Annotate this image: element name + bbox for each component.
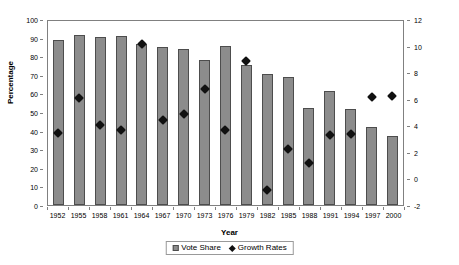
x-axis-tick-label: 1982 [257,207,278,229]
y-axis-left-tick-label: 50 [30,110,38,117]
y-axis-left-tick [40,94,43,95]
bar [283,77,294,205]
bar-slot [152,21,173,205]
y-axis-right-tick-label: 0 [414,176,418,183]
y-axis-left-tick-label: 20 [30,165,38,172]
x-axis-tick-label: 1976 [215,207,236,229]
y-axis-left-tick [40,113,43,114]
x-axis-tick-label: 1958 [89,207,110,229]
legend-item-growth-rates: Growth Rates [230,243,287,253]
chart-container: 0102030405060708090100 -2024681012 19521… [0,0,459,265]
bar [199,60,210,205]
x-axis-tick [68,207,69,210]
y-axis-left-tick-label: 10 [30,184,38,191]
y-axis-right-tick [407,73,410,74]
bar-slot [69,21,90,205]
x-axis-tick-label: 1964 [131,207,152,229]
y-axis-left-tick [40,187,43,188]
y-axis-right: -2024681012 [405,20,445,206]
y-axis-right-tick [407,179,410,180]
x-axis-tick [257,207,258,210]
x-axis-tick [89,207,90,210]
bar [74,35,85,205]
y-axis-right-tick-label: 2 [414,149,418,156]
x-axis-tick-label: 1979 [236,207,257,229]
x-axis-title: Year [0,228,459,237]
x-axis-tick [341,207,342,210]
y-axis-left-tick-label: 0 [34,203,38,210]
square-marker-icon [172,245,178,251]
y-axis-right-tick [407,126,410,127]
bar [136,44,147,205]
plot-area [47,20,404,206]
x-axis-tick [362,207,363,210]
x-axis-tick-label: 1955 [68,207,89,229]
y-axis-right-tick [407,100,410,101]
bar-slot [361,21,382,205]
x-axis-tick [173,207,174,210]
y-axis-left-tick [40,132,43,133]
bar-slot [48,21,69,205]
y-axis-left-tick-label: 90 [30,35,38,42]
x-axis-tick [215,207,216,210]
bar-slot [236,21,257,205]
y-axis-right-tick-label: 4 [414,123,418,130]
x-axis-tick [236,207,237,210]
bar [241,65,252,205]
y-axis-left-tick-label: 40 [30,128,38,135]
bar-slot [215,21,236,205]
y-axis-left-tick-label: 60 [30,91,38,98]
y-axis-left-tick [40,150,43,151]
bar-slot [340,21,361,205]
y-axis-right-tick [407,153,410,154]
x-axis-tick-label: 1952 [47,207,68,229]
bar-series-vote-share [48,21,403,205]
bar-slot [299,21,320,205]
x-axis-tick-label: 1967 [152,207,173,229]
data-point-marker [367,92,377,102]
bar [157,47,168,205]
bar [345,109,356,205]
x-axis-tick-label: 1970 [173,207,194,229]
y-axis-left-tick [40,57,43,58]
x-axis-tick [152,207,153,210]
legend-item-vote-share: Vote Share [172,243,221,253]
y-axis-right-tick-label: 6 [414,96,418,103]
y-axis-left-tick [40,39,43,40]
y-axis-left-tick [40,20,43,21]
y-axis-right-tick-label: 10 [414,43,422,50]
x-axis-tick [278,207,279,210]
x-axis-tick-label: 1997 [362,207,383,229]
y-axis-right-tick-label: 8 [414,70,418,77]
y-axis-right-tick [407,47,410,48]
x-axis-tick [131,207,132,210]
y-axis-left-tick [40,206,43,207]
x-axis-tick [47,207,48,210]
x-axis-tick [383,207,384,210]
bar-slot [278,21,299,205]
bar-slot [111,21,132,205]
y-axis-title: Percentage [6,43,15,123]
x-axis-tick [299,207,300,210]
y-axis-right-tick [407,20,410,21]
y-axis-left-tick-label: 30 [30,147,38,154]
bar-slot [382,21,403,205]
bar-slot [319,21,340,205]
x-axis-tick [110,207,111,210]
chart-legend: Vote Share Growth Rates [165,241,294,255]
x-axis-tick-label: 1985 [278,207,299,229]
y-axis-left-tick [40,76,43,77]
data-point-marker [387,91,397,101]
bar [387,136,398,205]
x-axis-tick [194,207,195,210]
x-axis-tick [320,207,321,210]
legend-label-vote-share: Vote Share [181,243,221,253]
x-axis-tick-label: 1961 [110,207,131,229]
x-axis-tick-label: 1973 [194,207,215,229]
bar-slot [194,21,215,205]
bar [366,127,377,205]
x-axis-tick [404,207,405,210]
bar-slot [257,21,278,205]
x-axis: 1952195519581961196419671970197319761979… [47,207,404,229]
y-axis-right-tick-label: -2 [414,203,420,210]
